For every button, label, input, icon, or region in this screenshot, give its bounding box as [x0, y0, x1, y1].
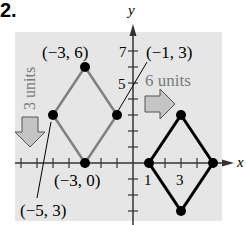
x-tick-label-1: 1	[144, 172, 152, 188]
x-axis-arrow-icon	[222, 160, 234, 167]
y-axis-label: y	[126, 2, 135, 18]
right-shift-label: 6 units	[145, 71, 191, 90]
y-tick-label-7: 7	[119, 44, 127, 60]
label-vertex-neg3-6: (−3, 6)	[42, 43, 88, 62]
translation-diagram: 2. y x 7 5 1 3	[0, 0, 246, 225]
problem-number: 2.	[0, 0, 17, 21]
x-tick-label-3: 3	[176, 172, 184, 188]
label-vertex-neg3-0: (−3, 0)	[54, 171, 100, 190]
label-vertex-neg5-3: (−5, 3)	[20, 201, 66, 220]
x-axis-label: x	[236, 154, 244, 170]
label-vertex-neg1-3: (−1, 3)	[146, 43, 192, 62]
y-axis-arrow-icon	[130, 24, 137, 36]
down-shift-label: 3 units	[21, 67, 38, 110]
y-tick-label-5: 5	[118, 76, 126, 92]
